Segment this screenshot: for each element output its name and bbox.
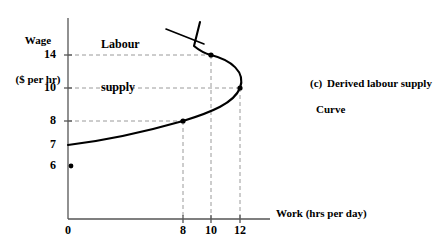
y-tick-label-8: 8 [30, 113, 56, 127]
point-12-10 [237, 85, 242, 90]
point-10-14 [208, 52, 213, 57]
y-axis-title-line1: Wage [8, 34, 68, 47]
y-tick-label-10: 10 [30, 80, 56, 94]
y-tick-label-7: 7 [30, 137, 56, 151]
x-tick-label-8: 8 [171, 223, 195, 237]
x-axis-title: Work (hrs per day) [276, 207, 367, 220]
figure-caption-line2: Curve [299, 103, 439, 116]
x-tick-label-10: 10 [199, 223, 223, 237]
point-8-8 [180, 118, 185, 123]
labour-supply-annotation-line1: Labour [101, 37, 163, 51]
y-tick-label-14: 14 [30, 47, 56, 61]
point-0-6 [69, 164, 74, 169]
x-tick-label-0: 0 [56, 223, 80, 237]
labour-supply-annotation: Labour supply [101, 9, 163, 122]
figure-caption-line1: Derived labour supply [327, 77, 432, 89]
figure-caption-tag: (c) [310, 77, 327, 90]
x-tick-label-12: 12 [228, 223, 252, 237]
figure-caption: (c)Derived labour supply Curve [299, 64, 439, 142]
labour-supply-figure: Wage ($ per hr) 14 10 8 7 6 0 8 10 12 Wo… [0, 0, 446, 244]
labour-supply-annotation-line2: supply [101, 80, 163, 94]
y-tick-label-6: 6 [30, 158, 56, 172]
